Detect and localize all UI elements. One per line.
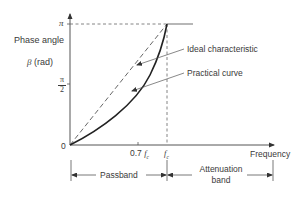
x-axis-label: Frequency bbox=[250, 150, 290, 159]
origin-label: 0 bbox=[61, 142, 66, 151]
ideal-characteristic-label: Ideal characteristic bbox=[187, 45, 258, 54]
y-axis-unit: (rad) bbox=[34, 57, 53, 67]
p7fc-tick-label: 0.7 fc bbox=[130, 149, 149, 160]
fc-sub: c bbox=[166, 154, 168, 160]
p7fc-value: 0.7 bbox=[130, 148, 142, 158]
beta-symbol: β bbox=[27, 57, 31, 67]
ideal-characteristic-line bbox=[70, 24, 167, 145]
half-pi-tick-label: π 2 bbox=[58, 76, 66, 94]
phase-diagram bbox=[0, 0, 306, 198]
half-pi-numerator: π bbox=[60, 75, 64, 84]
y-axis-label: Phase angle bbox=[14, 36, 64, 45]
fc-tick-label: fc bbox=[164, 149, 169, 160]
practical-curve-label: Practical curve bbox=[187, 69, 243, 78]
passband-label: Passband bbox=[100, 171, 138, 180]
attenuation-band-label-line1: Attenuation bbox=[196, 165, 246, 174]
practical-pointer-arrow bbox=[132, 73, 184, 91]
y-axis-unit-label: β (rad) bbox=[27, 58, 53, 67]
half-pi-denominator: 2 bbox=[60, 85, 64, 94]
pi-tick-label: π bbox=[59, 19, 64, 28]
attenuation-band-label-line2: band bbox=[196, 176, 246, 185]
p7fc-sub: c bbox=[147, 154, 149, 160]
